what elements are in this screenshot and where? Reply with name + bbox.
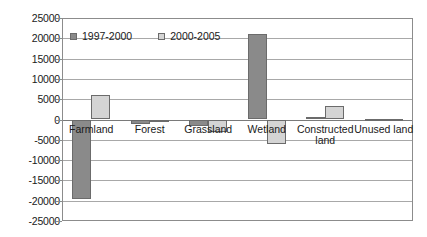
bar bbox=[325, 106, 344, 120]
y-axis-tick-label: 15000 bbox=[2, 54, 60, 64]
category-label: Wetland bbox=[234, 124, 301, 135]
bars-layer bbox=[62, 18, 413, 221]
legend-label: 1997-2000 bbox=[82, 31, 132, 42]
light-gray-swatch-icon bbox=[158, 33, 165, 40]
bar bbox=[248, 34, 267, 119]
y-axis-tick-label: 5000 bbox=[2, 94, 60, 104]
bar bbox=[384, 119, 403, 121]
legend-item-1997-2000: 1997-2000 bbox=[70, 31, 132, 42]
land-use-change-bar-chart: 2500020000150001000050000-5000-10000-150… bbox=[0, 0, 427, 237]
category-label: Forest bbox=[117, 124, 184, 135]
bar bbox=[306, 117, 325, 120]
y-axis-tick-mark bbox=[56, 221, 62, 222]
bar bbox=[91, 95, 110, 119]
bar bbox=[150, 120, 169, 122]
bar bbox=[365, 119, 384, 121]
y-axis-tick-label: -10000 bbox=[2, 155, 60, 165]
y-axis-tick-label: 20000 bbox=[2, 33, 60, 43]
category-label: Farmland bbox=[58, 124, 125, 135]
y-axis-tick-label: 0 bbox=[2, 115, 60, 125]
legend-label: 2000-2005 bbox=[170, 31, 220, 42]
y-axis-tick-label: -15000 bbox=[2, 175, 60, 185]
y-axis-tick-label: 10000 bbox=[2, 74, 60, 84]
y-axis-tick-label: 25000 bbox=[2, 13, 60, 23]
legend-item-2000-2005: 2000-2005 bbox=[158, 31, 220, 42]
y-axis-tick-label: -5000 bbox=[2, 135, 60, 145]
chart-legend: 1997-2000 2000-2005 bbox=[70, 31, 220, 42]
y-axis-tick-label: -20000 bbox=[2, 196, 60, 206]
category-label: Unused land bbox=[351, 124, 418, 135]
y-axis-tick-label: -25000 bbox=[2, 216, 60, 226]
category-label: Grassland bbox=[175, 124, 242, 135]
category-label: Constructed land bbox=[292, 124, 359, 146]
dark-gray-swatch-icon bbox=[70, 33, 77, 40]
